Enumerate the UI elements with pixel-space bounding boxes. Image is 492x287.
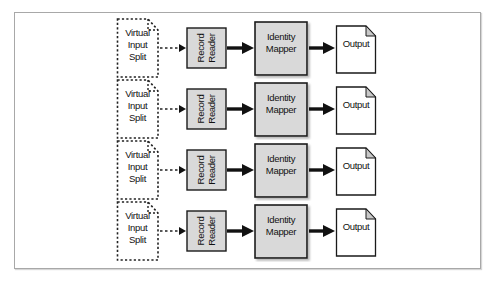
record-reader-label-wrap: Record Reader <box>186 88 226 130</box>
record-reader-label-wrap: Record Reader <box>186 27 226 69</box>
identity-mapper-label: Identity Mapper <box>255 92 307 116</box>
record-reader-label-wrap: Record Reader <box>186 210 226 252</box>
identity-mapper-label: Identity Mapper <box>255 214 307 238</box>
record-reader-label: Record Reader <box>195 216 217 245</box>
identity-mapper-label: Identity Mapper <box>255 31 307 55</box>
record-reader-label-wrap: Record Reader <box>186 149 226 191</box>
identity-mapper-label: Identity Mapper <box>255 153 307 177</box>
virtual-input-split-label: Virtual Input Split <box>117 27 158 63</box>
dashed-arrow-icon <box>160 166 186 174</box>
output-label: Output <box>336 99 376 111</box>
output-label: Output <box>336 160 376 172</box>
record-reader-label: Record Reader <box>195 155 217 184</box>
output-label: Output <box>336 221 376 233</box>
thick-arrow-icon <box>309 42 335 54</box>
row-shapes <box>0 139 492 201</box>
row-shapes <box>0 200 492 262</box>
pipeline-row: Virtual Input Split Record Reader Identi… <box>0 78 492 138</box>
pipeline-row: Virtual Input Split Record Reader Identi… <box>0 200 492 260</box>
thick-arrow-icon <box>309 103 335 115</box>
output-label: Output <box>336 38 376 50</box>
record-reader-label: Record Reader <box>195 33 217 62</box>
pipeline-row: Virtual Input Split Record Reader Identi… <box>0 17 492 77</box>
dashed-arrow-icon <box>160 44 186 52</box>
pipeline-row: Virtual Input Split Record Reader Identi… <box>0 139 492 199</box>
thick-arrow-icon <box>309 164 335 176</box>
thick-arrow-icon <box>227 42 254 54</box>
thick-arrow-icon <box>227 164 254 176</box>
row-shapes <box>0 17 492 79</box>
thick-arrow-icon <box>309 225 335 237</box>
thick-arrow-icon <box>227 225 254 237</box>
dashed-arrow-icon <box>160 105 186 113</box>
virtual-input-split-label: Virtual Input Split <box>117 88 158 124</box>
row-shapes <box>0 78 492 140</box>
thick-arrow-icon <box>227 103 254 115</box>
record-reader-label: Record Reader <box>195 94 217 123</box>
dashed-arrow-icon <box>160 227 186 235</box>
virtual-input-split-label: Virtual Input Split <box>117 149 158 185</box>
virtual-input-split-label: Virtual Input Split <box>117 210 158 246</box>
